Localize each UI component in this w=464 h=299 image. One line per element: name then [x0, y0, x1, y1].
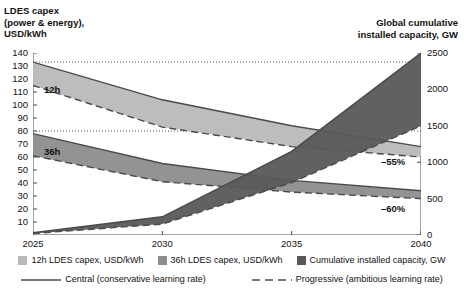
- band-label-12h: 12h: [44, 84, 60, 95]
- right-tick-2000: 2000: [427, 83, 461, 94]
- right-tick-1000: 1000: [427, 156, 461, 167]
- left-axis-title-line2: (power & energy),: [4, 17, 84, 29]
- chart-figure: LDES capex (power & energy), USD/kWh Glo…: [0, 0, 464, 299]
- legend-item-label: 12h LDES capex, USD/kWh: [31, 255, 143, 265]
- left-tick-70: 70: [2, 138, 28, 149]
- annotation-minus-60-percent: –60%: [381, 203, 405, 214]
- legend-item-0: 12h LDES capex, USD/kWh: [18, 255, 143, 265]
- legend-item-1: 36h LDES capex, USD/kWh: [158, 255, 283, 265]
- x-tick-2025: 2025: [13, 238, 53, 249]
- legend-line-row: Central (conservative learning rate)Prog…: [0, 274, 464, 284]
- left-axis-title-line3: USD/kWh: [4, 28, 84, 40]
- left-tick-60: 60: [2, 151, 28, 162]
- legend-line-item-1: Progressive (ambitious learning rate): [252, 274, 443, 284]
- plot-area: [33, 53, 421, 235]
- left-tick-50: 50: [2, 164, 28, 175]
- band-label-36h: 36h: [44, 146, 60, 157]
- right-tick-2500: 2500: [427, 47, 461, 58]
- right-tick-500: 500: [427, 193, 461, 204]
- left-tick-100: 100: [2, 99, 28, 110]
- x-tick-2030: 2030: [142, 238, 182, 249]
- legend: 12h LDES capex, USD/kWh36h LDES capex, U…: [0, 255, 464, 284]
- left-axis-title: LDES capex (power & energy), USD/kWh: [4, 5, 84, 40]
- legend-line-label: Progressive (ambitious learning rate): [296, 274, 443, 284]
- legend-item-label: Cumulative installed capacity, GW: [310, 255, 446, 265]
- right-axis-title: Global cumulative installed capacity, GW: [358, 17, 458, 40]
- left-tick-40: 40: [2, 177, 28, 188]
- right-tick-1500: 1500: [427, 120, 461, 131]
- left-tick-90: 90: [2, 112, 28, 123]
- left-tick-130: 130: [2, 60, 28, 71]
- solid-line-key: [21, 275, 61, 284]
- legend-swatch-row: 12h LDES capex, USD/kWh36h LDES capex, U…: [0, 255, 464, 265]
- left-tick-10: 10: [2, 216, 28, 227]
- plot-svg: [33, 53, 421, 235]
- square-swatch-icon: [297, 256, 306, 265]
- legend-item-2: Cumulative installed capacity, GW: [297, 255, 446, 265]
- left-tick-110: 110: [2, 86, 28, 97]
- annotation-minus-55-percent: –55%: [381, 156, 405, 167]
- left-tick-30: 30: [2, 190, 28, 201]
- legend-line-item-0: Central (conservative learning rate): [21, 274, 206, 284]
- legend-line-label: Central (conservative learning rate): [65, 274, 206, 284]
- dashed-line-key: [252, 275, 292, 284]
- left-tick-80: 80: [2, 125, 28, 136]
- square-swatch-icon: [158, 256, 167, 265]
- right-axis-title-line2: installed capacity, GW: [358, 29, 458, 41]
- x-tick-2035: 2035: [272, 238, 312, 249]
- left-tick-140: 140: [2, 47, 28, 58]
- legend-item-label: 36h LDES capex, USD/kWh: [171, 255, 283, 265]
- square-swatch-icon: [18, 256, 27, 265]
- left-tick-120: 120: [2, 73, 28, 84]
- left-tick-20: 20: [2, 203, 28, 214]
- right-axis-title-line1: Global cumulative: [358, 17, 458, 29]
- left-axis-title-line1: LDES capex: [4, 5, 84, 17]
- x-tick-2040: 2040: [401, 238, 441, 249]
